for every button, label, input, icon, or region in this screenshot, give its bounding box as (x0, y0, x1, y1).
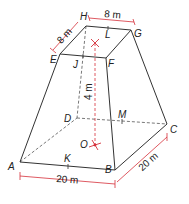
dim-base-AB: 20 m (56, 173, 79, 186)
edge-HD (77, 26, 86, 118)
label-G: G (134, 28, 142, 39)
label-B: B (105, 164, 112, 175)
label-J: J (72, 59, 79, 70)
midpoint-ticks (68, 26, 122, 169)
frustum-diagram: H G E F J L D M C O A K B 8 m 8 m 4 m 20… (0, 0, 189, 204)
label-E: E (50, 54, 57, 65)
diagram-canvas: H G E F J L D M C O A K B 8 m 8 m 4 m 20… (0, 0, 189, 204)
label-C: C (170, 124, 178, 135)
dim-top-HG: 8 m (104, 8, 122, 20)
label-O: O (80, 139, 88, 150)
edge-EA (20, 54, 60, 162)
label-H: H (80, 11, 88, 22)
label-M: M (118, 109, 127, 120)
label-K: K (64, 153, 72, 164)
label-L: L (105, 29, 111, 40)
label-F: F (108, 58, 115, 69)
dim-base-BC: 20 m (136, 150, 160, 173)
edge-GC (131, 30, 167, 124)
dim-height: 4 m (83, 83, 94, 100)
edge-FB (106, 58, 115, 170)
label-D: D (64, 113, 71, 124)
label-A: A (7, 161, 15, 172)
